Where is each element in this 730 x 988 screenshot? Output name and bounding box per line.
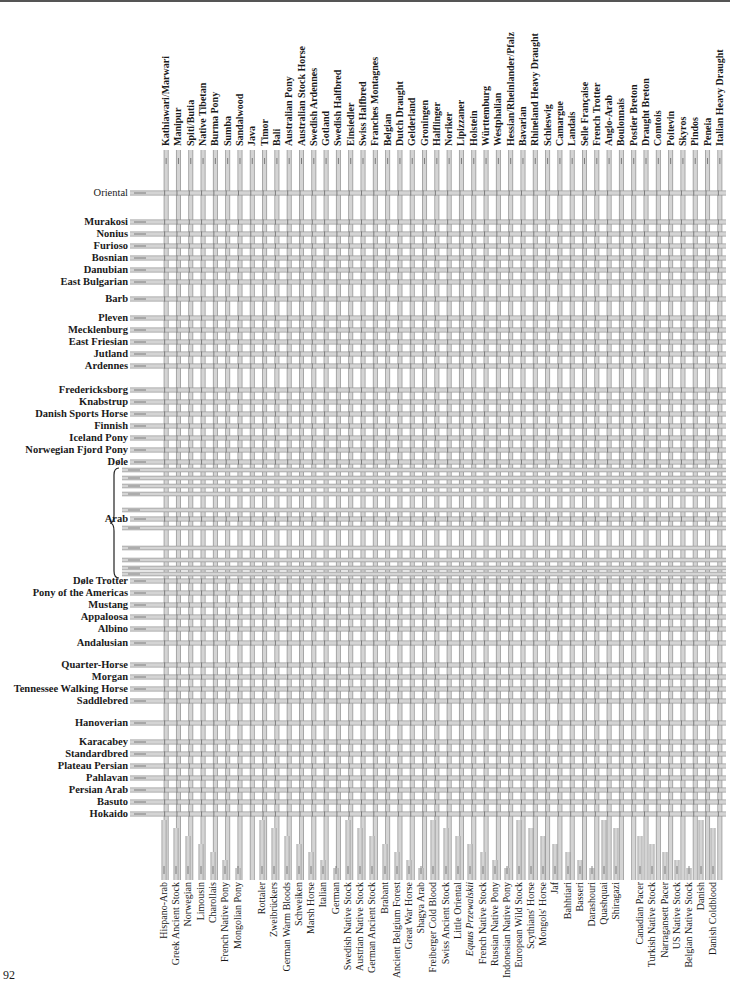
bottom-breed-label: Ancient Belgium Forest <box>391 882 403 986</box>
left-breed-label: Murakosi <box>84 216 128 228</box>
page-number: 92 <box>3 968 15 983</box>
breed-name: Great War Horse <box>403 882 415 949</box>
breed-name: Italian Heavy Draught <box>714 49 726 146</box>
breed-name: Holstein <box>468 110 480 146</box>
breed-name: Dutch Draught <box>394 81 406 146</box>
top-breed-label: Hessian/Rheinlander/Pfalz <box>505 4 517 146</box>
breed-name: Hispano-Arab <box>158 882 170 939</box>
breed-name: Charollais <box>207 882 219 923</box>
breed-name: Swedish Halfbred <box>332 70 344 146</box>
breed-name: Peneia <box>702 118 714 146</box>
bottom-breed-label: Hispano-Arab <box>158 882 170 986</box>
bottom-breed-label: Zweibrückers <box>268 882 280 986</box>
bottom-breed-label: Brabant <box>379 882 391 986</box>
breed-name: Marsh Horse <box>305 882 317 934</box>
left-breed-label: Knabstrup <box>79 396 128 408</box>
left-breed-label: Plateau Persian <box>58 760 128 772</box>
top-breed-label: Groningen <box>419 4 431 146</box>
arab-brace-icon <box>110 467 120 579</box>
top-breed-label: Gelderland <box>406 4 418 146</box>
left-breed-label: Mustang <box>88 599 128 611</box>
breed-name: Gelderland <box>406 98 418 146</box>
breed-name: Westphalian <box>492 93 504 146</box>
top-breed-label: Bali <box>271 4 283 146</box>
left-breed-label: Danubian <box>84 264 128 276</box>
breed-name: Mongols' Horse <box>537 882 549 946</box>
bottom-breed-label: Swiss Ancient Stock <box>440 882 452 986</box>
breed-name: Sumba <box>222 116 234 146</box>
bottom-breed-label: Shagya Arab <box>415 882 427 986</box>
left-breed-label: Ardennes <box>85 360 128 372</box>
bottom-breed-label: Quashquai <box>598 882 610 986</box>
top-breed-label: Sandalwood <box>234 4 246 146</box>
bottom-breed-label: Norwegian <box>182 882 194 986</box>
top-breed-label: Draught Breton <box>640 4 652 146</box>
left-breed-label: Hanoverian <box>75 717 128 729</box>
breed-name: Gotland <box>320 111 332 146</box>
breed-name: Selle Française <box>579 82 591 146</box>
top-breed-label: Einsiedler <box>345 4 357 146</box>
left-breed-label: Mecklenburg <box>68 324 128 336</box>
breed-name: Poitevin <box>665 111 677 146</box>
breed-name: Draught Breton <box>640 78 652 146</box>
breed-name: Australian Pony <box>283 76 295 146</box>
breed-name: Timor <box>259 119 271 146</box>
breed-name: German <box>330 882 342 914</box>
top-breed-label: Belgian <box>382 4 394 146</box>
bottom-breed-label: Basseri <box>574 882 586 986</box>
bottom-breed-label: Greek Ancient Stock <box>170 882 182 986</box>
bottom-breed-label: Shiragazi <box>610 882 622 986</box>
bottom-breed-label: European Wild Stock <box>513 882 525 986</box>
bottom-breed-label: Jaf <box>549 882 561 986</box>
breed-name: French Native Pony <box>219 882 231 962</box>
top-breed-label: Swedish Halfbred <box>332 4 344 146</box>
bottom-breed-label: Russian Native Pony <box>489 882 501 986</box>
bottom-breed-label: Freiberger Cold Blood <box>427 882 439 986</box>
top-breed-label: Gotland <box>320 4 332 146</box>
breed-name: Java <box>246 126 258 146</box>
bottom-breed-label: Equus Przewalskii <box>464 882 476 986</box>
top-breed-label: Australian Pony <box>283 4 295 146</box>
left-breed-label: Pony of the Americas <box>33 587 128 599</box>
breed-name: Greek Ancient Stock <box>170 882 182 965</box>
breed-name: US Native Stock <box>671 882 683 949</box>
breed-name: Swedish Native Stock <box>342 882 354 970</box>
bottom-breed-label: Italian <box>317 882 329 986</box>
breed-name: Franches Montagnes <box>369 57 381 146</box>
top-breed-label: Australian Stock Horse <box>296 4 308 146</box>
breed-name: Swedish Ardennes <box>308 68 320 146</box>
left-breed-label: Appaloosa <box>81 611 128 623</box>
bottom-breed-label: French Native Pony <box>219 882 231 986</box>
breed-name: Belgian Native Stock <box>683 882 695 968</box>
breed-name: Rhineland Heavy Draught <box>529 33 541 146</box>
bottom-breed-label: Little Oriental <box>452 882 464 986</box>
breed-name: Kathiawari/Marwari <box>160 56 172 146</box>
top-breed-label: Württemburg <box>480 4 492 146</box>
left-breed-label: Hokaido <box>89 808 128 820</box>
top-breed-label: Swedish Ardennes <box>308 4 320 146</box>
breed-name: French Native Stock <box>477 882 489 964</box>
top-breed-label: Kathiawari/Marwari <box>160 4 172 146</box>
left-breed-label: Pleven <box>98 312 128 324</box>
top-breed-label: Schleswig <box>542 4 554 146</box>
breed-name: Bahhtiari <box>562 882 574 919</box>
left-breed-label: Danish Sports Horse <box>35 408 128 420</box>
breed-name: Italian <box>317 882 329 908</box>
breed-name: Swiss Ancient Stock <box>440 882 452 964</box>
left-breed-label: Fredericksborg <box>59 384 128 396</box>
breed-name: Postier Breton <box>628 84 640 146</box>
top-breed-label: Dutch Draught <box>394 4 406 146</box>
top-breed-label: Skyros <box>677 4 689 146</box>
left-breed-label: Quarter-Horse <box>61 659 128 671</box>
breed-name: Darashouri <box>586 882 598 926</box>
bottom-breed-label: Austrian Native Stock <box>354 882 366 986</box>
top-breed-label: Anglo-Arab <box>603 4 615 146</box>
breed-name: Schleswig <box>542 104 554 146</box>
breed-name: Freiberger Cold Blood <box>427 882 439 972</box>
left-breed-label: Bosnian <box>92 252 128 264</box>
breed-name: Burma Pony <box>209 92 221 146</box>
top-breed-label: Peneia <box>702 4 714 146</box>
bottom-breed-label: Limousin <box>195 882 207 986</box>
bottom-breed-label: German <box>330 882 342 986</box>
breed-name: Turkish Native Stock <box>646 882 658 967</box>
